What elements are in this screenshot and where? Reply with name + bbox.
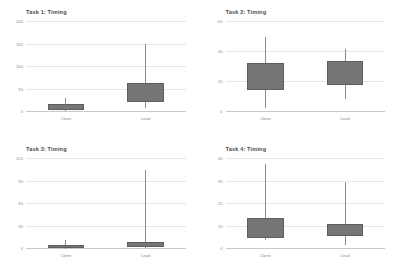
box-series: CloneLead: [226, 22, 386, 112]
whisker-upper: [145, 44, 146, 84]
box-iqr: [327, 224, 364, 235]
whisker-lower: [65, 110, 66, 111]
box-iqr: [48, 245, 85, 248]
whisker-lower: [345, 85, 346, 99]
y-axis-tick-label: 0: [220, 246, 222, 251]
x-axis-tick-label: Lead: [340, 116, 349, 121]
box-iqr: [247, 63, 284, 90]
plot-area: 050100150200CloneLead: [26, 22, 186, 112]
chart-title: Task 3: Timing: [26, 146, 67, 152]
y-axis-tick-label: 20: [218, 201, 223, 206]
whisker-upper: [345, 182, 346, 225]
y-axis-tick-label: 20: [218, 79, 223, 84]
y-axis-tick-label: 90: [18, 178, 23, 183]
box-plot-lead: Lead: [127, 22, 164, 112]
whisker-lower: [265, 238, 266, 240]
plot-area: 010203040CloneLead: [226, 159, 386, 249]
x-axis-tick-label: Lead: [141, 116, 150, 121]
whisker-upper: [265, 37, 266, 63]
box-plot-clone: Clone: [48, 22, 85, 112]
box-iqr: [127, 83, 164, 102]
y-axis-tick-label: 40: [218, 49, 223, 54]
chart-title: Task 4: Timing: [226, 146, 267, 152]
plot-area: 0204060CloneLead: [226, 22, 386, 112]
whisker-upper: [145, 170, 146, 241]
box-plot-lead: Lead: [327, 159, 364, 249]
box-iqr: [327, 61, 364, 85]
x-axis-tick-label: Clone: [260, 116, 271, 121]
chart-panel-3: Task 3: Timing0306090120CloneLead: [0, 137, 200, 274]
chart-title: Task 2: Timing: [226, 9, 267, 15]
whisker-upper: [265, 164, 266, 218]
y-axis-tick-label: 40: [218, 156, 223, 161]
y-axis-tick-label: 120: [16, 156, 23, 161]
whisker-lower: [265, 90, 266, 108]
y-axis-tick-label: 60: [18, 201, 23, 206]
y-axis-tick-label: 200: [16, 19, 23, 24]
box-plot-clone: Clone: [48, 159, 85, 249]
y-axis-tick-label: 60: [218, 19, 223, 24]
chart-title: Task 1: Timing: [26, 9, 67, 15]
x-axis-tick-label: Clone: [60, 253, 71, 258]
y-axis-tick-label: 10: [218, 223, 223, 228]
box-plot-clone: Clone: [247, 22, 284, 112]
whisker-lower: [345, 236, 346, 245]
box-iqr: [247, 218, 284, 238]
y-axis-tick-label: 30: [18, 223, 23, 228]
y-axis-tick-label: 30: [218, 178, 223, 183]
y-axis-tick-label: 0: [220, 109, 222, 114]
y-axis-tick-label: 0: [21, 109, 23, 114]
x-axis-tick-label: Clone: [60, 116, 71, 121]
x-axis-tick-label: Lead: [340, 253, 349, 258]
whisker-lower: [65, 248, 66, 249]
chart-panel-1: Task 1: Timing050100150200CloneLead: [0, 0, 200, 137]
y-axis-tick-label: 100: [16, 64, 23, 69]
y-axis-tick-label: 150: [16, 41, 23, 46]
box-series: CloneLead: [26, 159, 186, 249]
box-iqr: [127, 242, 164, 247]
box-plot-lead: Lead: [127, 159, 164, 249]
x-axis-tick-label: Clone: [260, 253, 271, 258]
y-axis-tick-label: 0: [21, 246, 23, 251]
y-axis-tick-label: 50: [18, 86, 23, 91]
x-axis-tick-label: Lead: [141, 253, 150, 258]
plot-area: 0306090120CloneLead: [26, 159, 186, 249]
box-plot-lead: Lead: [327, 22, 364, 112]
whisker-lower: [145, 247, 146, 249]
box-series: CloneLead: [226, 159, 386, 249]
box-series: CloneLead: [26, 22, 186, 112]
box-iqr: [48, 104, 85, 109]
chart-panel-4: Task 4: Timing010203040CloneLead: [200, 137, 399, 274]
box-plot-panel-grid: Task 1: Timing050100150200CloneLeadTask …: [0, 0, 399, 274]
whisker-upper: [345, 49, 346, 61]
box-plot-clone: Clone: [247, 159, 284, 249]
chart-panel-2: Task 2: Timing0204060CloneLead: [200, 0, 399, 137]
whisker-lower: [145, 102, 146, 108]
